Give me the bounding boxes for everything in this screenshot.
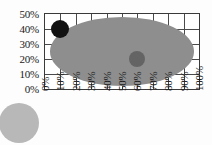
data-point-marker-a	[51, 20, 69, 38]
x-tick-label: 60%	[132, 71, 143, 91]
x-tick-label: 70%	[147, 71, 158, 91]
y-tick-label: 20%	[19, 54, 39, 65]
x-axis: 0%10%20%30%40%50%60%70%80%90%100%	[44, 91, 200, 145]
corner-circle-decoration	[0, 103, 39, 143]
x-tick-label: 100%	[194, 66, 205, 91]
x-tick-label: 80%	[163, 71, 174, 91]
y-tick-label: 0%	[25, 84, 39, 95]
x-tick-label: 0%	[40, 77, 51, 91]
y-tick-label: 10%	[19, 69, 39, 80]
data-point-marker-b	[129, 51, 145, 67]
x-tick-label: 40%	[101, 71, 112, 91]
x-tick-label: 50%	[117, 71, 128, 91]
y-tick-label: 40%	[19, 24, 39, 35]
x-tick-label: 30%	[86, 71, 97, 91]
y-axis: 0%10%20%30%40%50%	[0, 13, 42, 90]
chart-page: 0%10%20%30%40%50% 0%10%20%30%40%50%60%70…	[0, 0, 212, 145]
x-tick-label: 90%	[178, 71, 189, 91]
x-tick-label: 20%	[70, 71, 81, 91]
y-tick-label: 30%	[19, 39, 39, 50]
y-tick-label: 50%	[19, 9, 39, 20]
x-tick-label: 10%	[55, 71, 66, 91]
